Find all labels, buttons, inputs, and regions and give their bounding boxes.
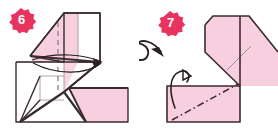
face-diagonal-band <box>205 16 278 86</box>
panel-6-canvas: 6 <box>0 0 139 136</box>
badge-label-7: 7 <box>167 15 174 30</box>
badge-label-6: 6 <box>18 12 25 27</box>
diagram-panel-step-7: 7 <box>139 0 278 136</box>
step-number-badge-6: 6 <box>9 8 36 34</box>
diagram-panel-step-6: 6 <box>0 0 139 136</box>
turn-over-arrow <box>139 41 164 60</box>
step-number-badge-7: 7 <box>158 11 185 37</box>
panel-7-canvas: 7 <box>139 0 278 136</box>
turn-over-arrow-head <box>151 47 164 57</box>
origami-diagram-page: 6 <box>0 0 278 136</box>
